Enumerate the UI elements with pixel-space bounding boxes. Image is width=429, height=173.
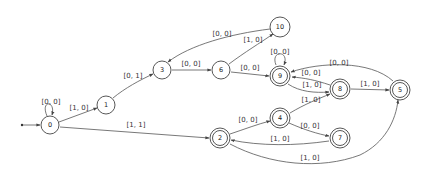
svg-text:10: 10 <box>276 23 284 31</box>
state-5-accepting: 5 <box>390 80 410 100</box>
svg-text:6: 6 <box>219 66 223 74</box>
edge-label: [1, 0] <box>271 135 290 143</box>
edge-label: [0, 0] <box>182 60 201 68</box>
svg-text:9: 9 <box>278 72 282 80</box>
edge-label: [0, 0] <box>239 116 258 124</box>
edge-9-9: [0, 0] <box>271 48 290 65</box>
edge-0-0: [0, 0] <box>42 98 61 116</box>
edge-label: [0, 0] <box>302 69 321 77</box>
edge-label: [0, 1] <box>124 72 143 80</box>
edge-label: [1, 1] <box>127 121 146 129</box>
state-8-accepting: 8 <box>330 79 350 99</box>
edge-3-6: [0, 0] <box>172 60 211 70</box>
edge-label: [0, 0] <box>42 98 61 106</box>
edge-label: [0, 0] <box>271 48 290 56</box>
edge-label: [1, 0] <box>303 81 322 89</box>
edge-label: [0, 0] <box>241 64 260 72</box>
edge-label: [1, 0] <box>301 154 320 162</box>
edge-0-1: [1, 0] <box>59 104 97 122</box>
edge-label: [1, 0] <box>244 36 263 44</box>
state-2-accepting: 2 <box>210 128 230 148</box>
edge-6-9: [0, 0] <box>231 64 269 76</box>
state-9-accepting: 9 <box>270 66 290 86</box>
edge-10-3: [0, 0] <box>168 29 270 62</box>
svg-text:3: 3 <box>160 66 164 74</box>
svg-text:2: 2 <box>218 134 222 142</box>
edge-label: [0, 0] <box>301 122 320 130</box>
edge-2-5: [1, 0] <box>230 100 398 164</box>
edge-7-2: [1, 0] <box>231 135 329 145</box>
edge-label: [1, 0] <box>361 80 380 88</box>
state-diagram: [0, 0] [1, 0] [1, 1] [0, 1] [0, 0] [0, 0… <box>0 0 429 173</box>
state-10: 10 <box>270 17 290 37</box>
svg-text:7: 7 <box>338 134 342 142</box>
edge-label: [1, 0] <box>302 96 321 104</box>
start-dot-icon <box>21 124 23 126</box>
edge-4-8: [1, 0] <box>290 94 330 113</box>
edge-8-5: [1, 0] <box>351 80 389 90</box>
svg-text:5: 5 <box>398 86 402 94</box>
edge-1-3: [0, 1] <box>113 72 153 98</box>
initial-state-arrow <box>21 124 40 126</box>
state-1: 1 <box>97 96 115 114</box>
svg-text:4: 4 <box>278 114 282 122</box>
edge-label: [1, 0] <box>70 104 89 112</box>
edge-0-2: [1, 1] <box>60 121 209 138</box>
edge-6-10: [1, 0] <box>229 34 273 64</box>
state-4-accepting: 4 <box>270 108 290 128</box>
svg-text:0: 0 <box>48 121 52 129</box>
svg-text:1: 1 <box>104 101 108 109</box>
svg-text:8: 8 <box>338 85 342 93</box>
edge-label: [0, 0] <box>330 59 349 67</box>
edge-label: [0, 0] <box>213 30 232 38</box>
state-7-accepting: 7 <box>330 128 350 148</box>
state-0: 0 <box>41 116 59 134</box>
state-3: 3 <box>153 61 171 79</box>
state-6: 6 <box>212 61 230 79</box>
edge-4-7: [0, 0] <box>289 122 329 136</box>
edge-2-4: [0, 0] <box>230 116 270 134</box>
